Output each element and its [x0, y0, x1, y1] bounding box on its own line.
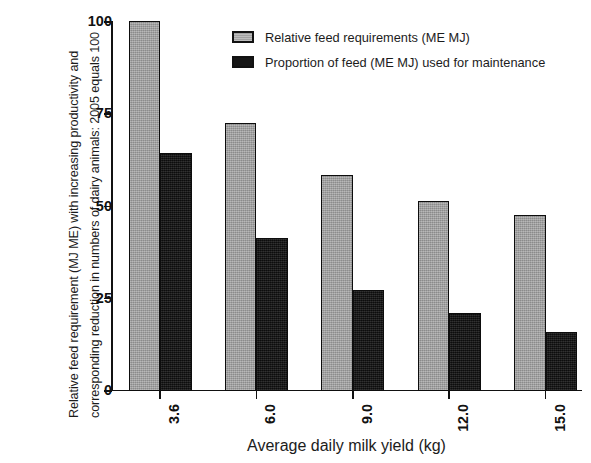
bar — [546, 332, 578, 391]
chart-legend: Relative feed requirements (ME MJ)Propor… — [232, 26, 582, 76]
x-axis-tick-label: 6.0 — [262, 404, 278, 424]
bar — [514, 215, 546, 391]
x-axis-tick-label: 3.6 — [166, 404, 182, 424]
x-axis-tick-label: 12.0 — [455, 404, 471, 432]
x-axis-tick-label: 9.0 — [359, 404, 375, 424]
bar — [256, 238, 288, 391]
legend-label: Proportion of feed (ME MJ) used for main… — [265, 55, 545, 70]
x-axis-tick-mark — [545, 390, 547, 399]
bar — [321, 175, 353, 391]
legend-swatch-icon — [232, 31, 254, 43]
legend-swatch-icon — [232, 56, 254, 68]
x-axis-tick-mark — [352, 390, 354, 399]
x-axis-tick-mark — [448, 390, 450, 399]
y-axis-title-wrapper: Relative feed requirement (MJ ME) with i… — [0, 0, 68, 420]
bar — [129, 21, 161, 391]
y-axis-tick-label: 75 — [70, 105, 112, 121]
bar-chart: Relative feed requirement (MJ ME) with i… — [0, 0, 591, 463]
x-axis-tick-label: 15.0 — [552, 404, 568, 432]
y-axis-tick-label: 25 — [70, 290, 112, 306]
x-axis-tick-mark — [256, 390, 258, 399]
bar — [160, 153, 192, 391]
legend-item: Proportion of feed (ME MJ) used for main… — [232, 51, 582, 73]
legend-label: Relative feed requirements (ME MJ) — [265, 30, 470, 45]
x-axis-tick-mark — [159, 390, 161, 399]
bar — [225, 123, 257, 391]
bar — [418, 201, 450, 391]
y-axis-tick-label: 100 — [70, 13, 112, 29]
bar — [353, 290, 385, 391]
x-axis-title: Average daily milk yield (kg) — [111, 437, 582, 455]
bar — [449, 313, 481, 391]
y-axis-tick-label: 0 — [70, 382, 112, 398]
y-axis-tick-label: 50 — [70, 198, 112, 214]
legend-item: Relative feed requirements (ME MJ) — [232, 26, 582, 48]
